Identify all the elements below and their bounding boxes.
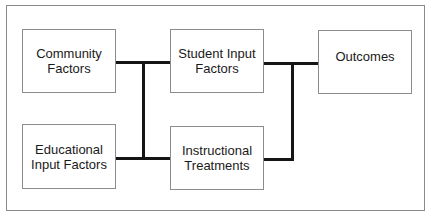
connector-instructional-horizontal	[264, 158, 294, 161]
educational-input-factors-box: Educational Input Factors	[22, 124, 116, 189]
connector-left-vertical	[142, 61, 145, 160]
student-input-factors-label: Student Input Factors	[178, 46, 255, 76]
student-input-factors-box: Student Input Factors	[170, 29, 264, 93]
instructional-treatments-label: Instructional Treatments	[182, 143, 252, 173]
educational-input-factors-label: Educational Input Factors	[31, 142, 107, 172]
community-factors-box: Community Factors	[22, 29, 116, 93]
outcomes-label: Outcomes	[335, 49, 394, 64]
outcomes-box: Outcomes	[318, 30, 412, 94]
community-factors-label: Community Factors	[36, 46, 102, 76]
connector-right-vertical	[291, 62, 294, 161]
instructional-treatments-box: Instructional Treatments	[170, 126, 264, 190]
